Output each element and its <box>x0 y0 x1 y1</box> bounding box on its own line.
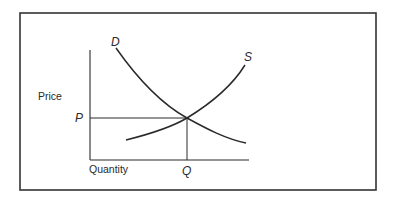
figure-frame <box>20 13 376 190</box>
supply-curve <box>126 65 245 140</box>
supply-label: S <box>244 50 252 64</box>
y-axis-label: Price <box>38 90 62 102</box>
x-axis-label: Quantity <box>89 163 129 175</box>
quantity-equilibrium-label: Q <box>182 164 191 178</box>
demand-curve <box>116 48 246 143</box>
demand-label: D <box>111 35 120 49</box>
supply-demand-chart: Price Quantity D S P Q <box>0 0 394 203</box>
price-equilibrium-label: P <box>75 111 83 125</box>
